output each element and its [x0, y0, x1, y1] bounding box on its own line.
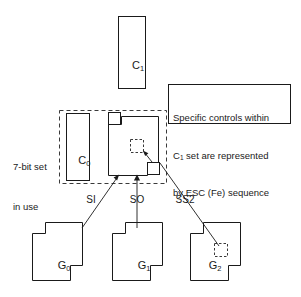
c0-set-label: C0 [66, 141, 90, 180]
seven-bit-region-label: 7-bit set in use [13, 134, 61, 239]
single-shift-target-dashed-square [131, 140, 144, 153]
edge-label-ss2: SS2 [171, 194, 199, 206]
note-line-2-subscript: 1 [180, 154, 184, 161]
note-line-2-prefix: C [173, 150, 180, 161]
g2-set-subscript: 2 [217, 264, 221, 273]
c1-set-letter: C [132, 59, 140, 71]
note-line-1: Specific controls within [173, 112, 289, 125]
c1-set-subscript: 1 [140, 64, 144, 73]
c0-set-letter: C [78, 154, 86, 166]
g0-set-subscript: 0 [66, 264, 70, 273]
seven-bit-region-line-2: in use [13, 200, 61, 213]
ss2-invocation-square [148, 163, 160, 175]
diagram-canvas: C1 C0 Specific controls within C1 set ar… [0, 0, 301, 297]
edge-label-so: SO [125, 194, 149, 206]
g2-set-label: G2 [195, 246, 223, 285]
gl-invocation-square [109, 113, 121, 125]
active-g-set-shape [109, 117, 159, 176]
note-line-2: C1 set are represented [173, 150, 289, 163]
edge-label-si: SI [79, 194, 103, 206]
c0-set-subscript: 0 [86, 159, 90, 168]
c1-set-label: C1 [118, 46, 146, 85]
seven-bit-region-line-1: 7-bit set [13, 160, 61, 173]
g1-set-subscript: 1 [146, 264, 150, 273]
g1-set-label: G1 [124, 246, 152, 285]
g0-set-label: G0 [44, 246, 72, 285]
note-line-2-suffix: set are represented [183, 150, 268, 161]
ss2-to-target-arrowhead [143, 151, 149, 157]
